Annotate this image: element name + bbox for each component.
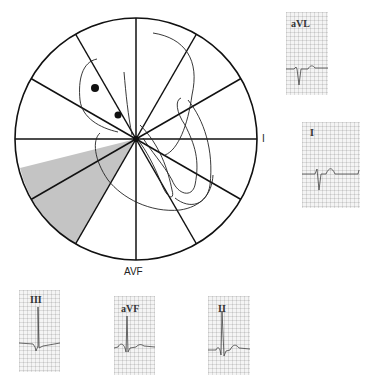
- ecg-trace: [302, 122, 360, 208]
- ecg-trace: [208, 296, 250, 375]
- center-dot: [133, 136, 139, 142]
- ecg-trace: [286, 12, 328, 95]
- ecg-lead-i: I: [302, 122, 360, 208]
- electrode-dot: [115, 112, 122, 119]
- ecg-trace: [114, 296, 155, 375]
- axis-label-avf: AVF: [124, 266, 143, 277]
- ecg-lead-avl: aVL: [286, 12, 328, 95]
- ecg-lead-avf: aVF: [114, 296, 155, 375]
- electrode-dot: [91, 84, 99, 92]
- ecg-lead-ii: II: [208, 296, 250, 375]
- ecg-lead-iii: III: [19, 290, 60, 372]
- ecg-trace: [19, 290, 60, 372]
- axis-label-i: I: [262, 133, 265, 144]
